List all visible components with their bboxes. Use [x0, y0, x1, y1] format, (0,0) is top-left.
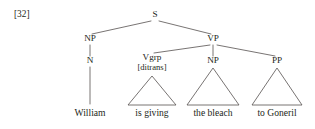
- node-s-label: S: [152, 9, 157, 19]
- node-np-object-label: NP: [207, 55, 219, 65]
- edge-vp-to-pp: [217, 45, 275, 56]
- triangle-pp: [252, 68, 302, 105]
- leaf-the-bleach: the bleach: [193, 108, 232, 118]
- edge-vp-to-vgrp: [154, 45, 210, 53]
- triangle-vgrp: [128, 76, 176, 105]
- node-pp-label: PP: [272, 55, 282, 65]
- leaf-the-bleach-label: the bleach: [193, 107, 232, 118]
- node-n-head: N: [87, 56, 94, 66]
- node-np-subject-label: NP: [84, 33, 96, 43]
- node-np-subject: NP: [84, 34, 96, 44]
- leaf-to-goneril: to Goneril: [257, 108, 296, 118]
- node-vgrp-label: Vgrp: [143, 52, 162, 62]
- syntax-tree-figure: [32] S NP N VP Vgrp [ditrans]: [0, 0, 315, 129]
- leaf-is-giving: is giving: [135, 108, 168, 118]
- node-n-head-label: N: [87, 55, 94, 65]
- leaf-william: William: [74, 108, 105, 118]
- node-s: S: [152, 10, 157, 20]
- triangle-np-object: [187, 68, 239, 105]
- edge-s-to-vp: [159, 21, 211, 34]
- node-vp: VP: [207, 34, 219, 44]
- edge-s-to-np-subject: [92, 21, 151, 34]
- node-vp-label: VP: [207, 33, 219, 43]
- node-vgrp: Vgrp [ditrans]: [137, 53, 166, 72]
- node-vgrp-feature: [ditrans]: [137, 63, 166, 72]
- node-pp: PP: [272, 56, 282, 66]
- node-np-object: NP: [207, 56, 219, 66]
- leaf-to-goneril-label: to Goneril: [257, 107, 296, 118]
- leaf-is-giving-label: is giving: [135, 107, 168, 118]
- leaf-william-label: William: [74, 107, 105, 118]
